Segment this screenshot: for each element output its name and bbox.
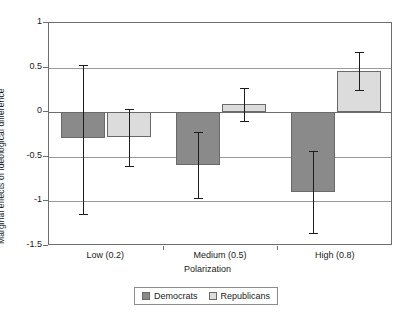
error-bar-line-republicans-1: [244, 88, 245, 121]
legend-item-democrats: Democrats: [142, 291, 198, 301]
error-bar-line-democrats-0: [83, 65, 84, 214]
x-tick-label-0: Low (0.2): [45, 250, 165, 260]
chart-legend: Democrats Republicans: [134, 287, 278, 305]
gridline--0.5: [49, 157, 391, 158]
error-bar-cap-lower-republicans-2: [355, 90, 364, 91]
x-tick-label-2: High (0.8): [275, 250, 395, 260]
legend-swatch-republicans: [209, 292, 217, 300]
error-bar-cap-upper-democrats-1: [194, 132, 203, 133]
error-bar-cap-upper-republicans-2: [355, 52, 364, 53]
legend-swatch-democrats: [142, 292, 150, 300]
gridline-0.5: [49, 68, 391, 69]
chart-container: Marginal effects of ideological differen…: [0, 0, 415, 320]
error-bar-cap-upper-republicans-0: [125, 109, 134, 110]
error-bar-cap-upper-democrats-2: [309, 151, 318, 152]
legend-item-republicans: Republicans: [209, 291, 271, 301]
error-bar-line-democrats-2: [313, 151, 314, 233]
error-bar-cap-lower-democrats-0: [79, 214, 88, 215]
plot-area: [48, 22, 392, 245]
y-tick-label--0.5: -0.5: [0, 151, 42, 160]
x-axis-title: Polarization: [0, 264, 415, 274]
error-bar-cap-lower-republicans-1: [240, 121, 249, 122]
legend-label-republicans: Republicans: [221, 291, 271, 301]
error-bar-line-democrats-1: [198, 132, 199, 198]
error-bar-line-republicans-0: [129, 109, 130, 166]
y-tick-label--1: -1: [0, 195, 42, 204]
y-tick-label--1.5: -1.5: [0, 240, 42, 249]
x-tick-mark-2: [277, 246, 278, 250]
error-bar-cap-lower-republicans-0: [125, 166, 134, 167]
y-tick-mark--1.5: [43, 245, 48, 246]
error-bar-cap-lower-democrats-2: [309, 233, 318, 234]
error-bar-cap-upper-democrats-0: [79, 65, 88, 66]
gridline--1: [49, 201, 391, 202]
error-bar-line-republicans-2: [359, 52, 360, 90]
y-tick-label-0.5: 0.5: [0, 62, 42, 71]
x-tick-label-1: Medium (0.5): [160, 250, 280, 260]
error-bar-cap-lower-democrats-1: [194, 198, 203, 199]
legend-label-democrats: Democrats: [154, 291, 198, 301]
x-tick-mark-1: [163, 246, 164, 250]
y-tick-label-1: 1: [0, 17, 42, 26]
y-tick-label-0: 0: [0, 106, 42, 115]
error-bar-cap-upper-republicans-1: [240, 88, 249, 89]
